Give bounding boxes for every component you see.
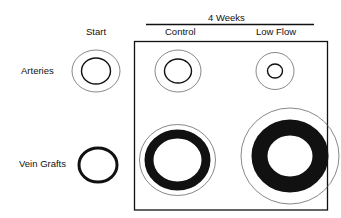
- artery-control: [155, 50, 201, 92]
- vein-graft-control: [140, 125, 216, 196]
- vein-graft-start: [79, 148, 117, 182]
- vein-graft-low-flow: [241, 108, 339, 204]
- vessel-diagram: [0, 0, 341, 218]
- artery-start: [72, 50, 120, 92]
- artery-low-flow: [256, 53, 294, 90]
